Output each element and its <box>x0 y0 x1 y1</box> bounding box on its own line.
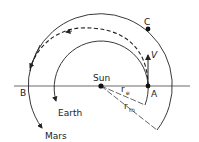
sun-dot <box>98 83 103 88</box>
r-mars-label: r <box>124 101 128 111</box>
velocity-label: V <box>151 50 158 60</box>
r-earth-subscript: e <box>126 89 130 96</box>
point-a-label: A <box>151 89 158 99</box>
r-earth-label: r <box>121 84 125 94</box>
point-c-label: C <box>144 17 150 27</box>
sun-label: Sun <box>93 73 110 83</box>
mars-label: Mars <box>45 131 67 141</box>
point-b-label: B <box>20 88 26 98</box>
orbit-diagram: Sun A B C V Earth Mars r e r m <box>0 0 199 142</box>
earth-label: Earth <box>58 108 82 118</box>
mars-orbit <box>28 14 172 130</box>
point-c-dot <box>146 27 151 32</box>
r-mars-subscript: m <box>129 106 135 113</box>
point-a-dot <box>146 84 151 89</box>
